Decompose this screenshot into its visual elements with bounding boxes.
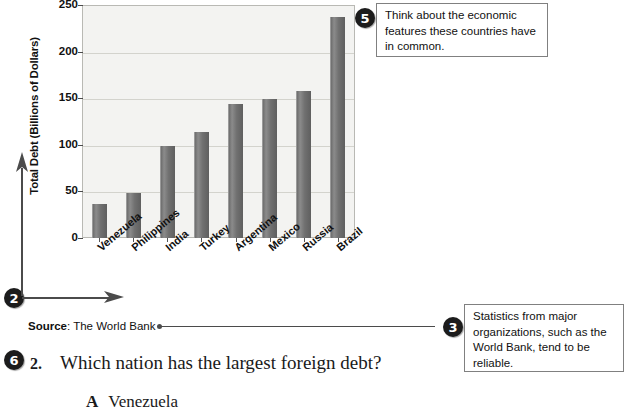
chart-bar (194, 132, 209, 238)
callout-marker-3: 3 (443, 317, 463, 337)
chart-plot-area (82, 5, 355, 238)
chart-gridline (83, 99, 354, 100)
source-separator: : (67, 320, 70, 332)
chart-gridline (83, 146, 354, 147)
callout-box-5: Think about the economic features these … (376, 3, 548, 57)
leader-line-source-to-callout3 (160, 326, 435, 327)
callout-3-text: Statistics from major organizations, suc… (473, 310, 607, 369)
callout-marker-5: 5 (355, 8, 375, 28)
source-label: Source (28, 320, 67, 332)
y-tick-label: 200 (48, 45, 78, 57)
chart-gridline (83, 192, 354, 193)
chart-gridline (83, 53, 354, 54)
y-tick-mark (78, 52, 83, 53)
answer-letter: A (86, 392, 98, 407)
question-text: Which nation has the largest foreign deb… (60, 352, 382, 374)
y-tick-label: 150 (48, 91, 78, 103)
callout-marker-6: 6 (4, 350, 24, 370)
leader-line-horizontal-2 (22, 297, 110, 299)
y-tick-label: 0 (48, 231, 78, 243)
y-tick-mark (78, 191, 83, 192)
y-tick-label: 250 (48, 0, 78, 10)
y-tick-mark (78, 238, 83, 239)
chart-bar (92, 204, 107, 238)
chart-bar (228, 104, 243, 238)
y-tick-mark (78, 145, 83, 146)
question-row: 2. Which nation has the largest foreign … (24, 352, 382, 374)
chart-bar (330, 17, 345, 238)
y-tick-label: 100 (48, 138, 78, 150)
y-tick-label: 50 (48, 184, 78, 196)
chart-bar (296, 91, 311, 238)
answer-text: Venezuela (108, 392, 178, 407)
source-line: Source: The World Bank (28, 320, 155, 332)
leader-line-vertical (21, 168, 23, 296)
callout-5-text: Think about the economic features these … (385, 9, 536, 52)
y-axis-title: Total Debt (Billions of Dollars) (28, 16, 40, 216)
leader-dot (157, 324, 162, 329)
y-tick-mark (78, 98, 83, 99)
answer-option-a[interactable]: A Venezuela (86, 392, 178, 407)
source-value: The World Bank (73, 320, 155, 332)
callout-box-3: Statistics from major organizations, suc… (464, 304, 624, 372)
question-number: 2. (30, 355, 42, 373)
arrowhead-up-icon (15, 152, 29, 172)
y-tick-mark (78, 5, 83, 6)
bar-chart-figure: Total Debt (Billions of Dollars) 0501001… (0, 0, 370, 310)
arrowhead-right-icon (104, 290, 124, 305)
